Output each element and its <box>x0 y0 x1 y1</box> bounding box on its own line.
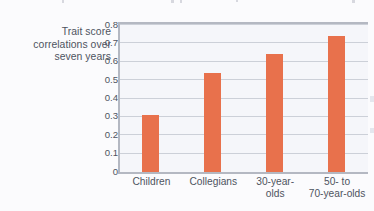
page-edge-mark <box>370 96 374 102</box>
bar-chart-figure: Trait scorecorrelations overseven years … <box>0 0 374 211</box>
y-axis-tick-label: 0.2 <box>92 130 118 140</box>
bar <box>328 36 345 172</box>
y-axis-tick-label: 0.1 <box>92 148 118 158</box>
x-axis-category-label: 50- to70-year-olds <box>294 176 374 201</box>
y-axis-tick-label: 0.3 <box>92 112 118 122</box>
y-axis-tick-label: 0.5 <box>92 75 118 85</box>
y-axis-tick-label: 0.8 <box>92 20 118 30</box>
y-axis-tick-label: 0.6 <box>92 56 118 66</box>
bar <box>142 115 159 172</box>
bar <box>204 73 221 172</box>
y-axis-tick-label: 0.7 <box>92 38 118 48</box>
x-axis-category-label-line-1: 70-year-olds <box>294 188 374 200</box>
x-axis-category-labels: ChildrenCollegians30-year-olds50- to70-y… <box>118 176 374 210</box>
y-axis-tick-label: 0 <box>92 167 118 177</box>
y-axis-tick-labels: 0.80.70.60.50.40.30.20.10 <box>92 22 118 174</box>
bar-series <box>120 24 368 172</box>
page-edge-mark <box>370 128 374 133</box>
y-axis-tick-label: 0.4 <box>92 93 118 103</box>
plot-area <box>118 22 368 174</box>
x-axis-category-label-line-0: 50- to <box>294 176 374 188</box>
bar <box>266 54 283 172</box>
